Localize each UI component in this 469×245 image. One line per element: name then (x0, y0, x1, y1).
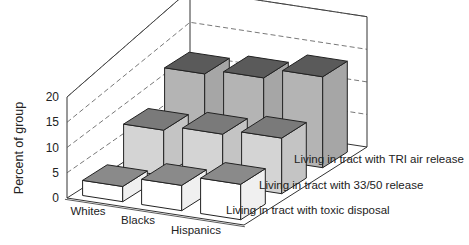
bars (83, 52, 348, 220)
series-label: Living in tract with toxic disposal (226, 204, 390, 216)
bar (83, 165, 148, 202)
category-label: Blacks (121, 214, 155, 226)
3d-bar-chart: 05101520Percent of groupWhitesBlacksHisp… (0, 0, 469, 245)
y-tick-label: 15 (46, 115, 60, 129)
y-tick-label: 0 (52, 191, 59, 205)
series-label: Living in tract with 33/50 release (259, 179, 423, 191)
y-tick-label: 20 (46, 90, 60, 104)
y-axis-ticks: 05101520 (46, 90, 60, 205)
category-label: Whites (70, 205, 105, 217)
series-label: Living in tract with TRI air release (294, 153, 464, 165)
category-label: Hispanics (171, 224, 221, 236)
y-tick-label: 5 (52, 166, 59, 180)
y-tick-label: 10 (46, 141, 60, 155)
y-axis-label: Percent of group (12, 102, 26, 194)
